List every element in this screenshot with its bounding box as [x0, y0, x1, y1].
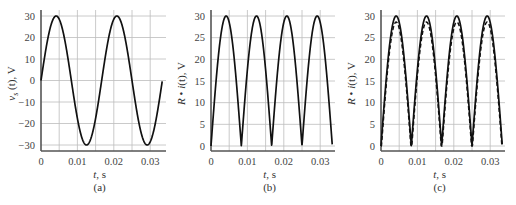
x-axis-label: t, s: [93, 168, 106, 180]
y-tick-label: 10: [25, 54, 36, 65]
x-axis-label: t, s: [433, 168, 446, 180]
chart-panel-a: 3020100−10−20−3000.010.020.03t, svs (t),…: [0, 0, 172, 205]
y-tick-label: 25: [195, 32, 206, 43]
y-tick-label: 25: [365, 32, 376, 43]
y-tick-label: −20: [19, 118, 35, 129]
y-tick-label: 15: [365, 76, 376, 87]
y-tick-label: 5: [200, 119, 205, 130]
x-tick-label: 0: [208, 156, 213, 167]
y-tick-label: −30: [19, 140, 35, 151]
x-axis-label: t, s: [263, 168, 276, 180]
y-tick-label: 20: [25, 32, 36, 43]
y-tick-label: 0: [30, 75, 35, 86]
y-tick-label: 10: [195, 97, 206, 108]
x-tick-label: 0.02: [105, 156, 123, 167]
y-axis-label: vs (t), V: [5, 66, 20, 100]
y-tick-label: 20: [365, 54, 376, 65]
x-tick-label: 0.03: [481, 156, 499, 167]
y-tick-label: 15: [195, 76, 206, 87]
chart-b: 30252015105000.010.020.03t, sR • i(t), V…: [172, 0, 344, 205]
x-tick-label: 0.01: [408, 156, 426, 167]
x-tick-label: 0.02: [275, 156, 293, 167]
y-tick-label: 30: [195, 11, 206, 22]
y-tick-label: −10: [19, 97, 35, 108]
chart-panel-c: 30252015105000.010.020.03t, sR • i(t), V…: [344, 0, 516, 205]
y-tick-label: 0: [200, 141, 205, 152]
x-tick-label: 0: [378, 156, 383, 167]
y-tick-label: 0: [370, 141, 375, 152]
x-tick-label: 0.03: [141, 156, 159, 167]
chart-caption: (c): [433, 181, 446, 194]
grid: [41, 10, 166, 151]
chart-c: 30252015105000.010.020.03t, sR • i(t), V…: [344, 0, 516, 205]
y-tick-label: 30: [365, 11, 376, 22]
y-tick-label: 20: [195, 54, 206, 65]
y-axis-label: R • i(t), V: [175, 62, 188, 106]
chart-caption: (a): [93, 181, 106, 194]
y-tick-label: 5: [370, 119, 375, 130]
chart-caption: (b): [263, 181, 276, 194]
y-tick-label: 30: [25, 11, 36, 22]
x-tick-label: 0.01: [68, 156, 86, 167]
x-tick-label: 0.03: [311, 156, 329, 167]
chart-panel-b: 30252015105000.010.020.03t, sR • i(t), V…: [172, 0, 344, 205]
x-tick-label: 0.01: [238, 156, 256, 167]
y-axis-label: R • i(t), V: [345, 62, 358, 106]
x-tick-label: 0: [38, 156, 43, 167]
y-tick-label: 10: [365, 97, 376, 108]
chart-a: 3020100−10−20−3000.010.020.03t, svs (t),…: [0, 0, 172, 205]
x-tick-label: 0.02: [445, 156, 463, 167]
